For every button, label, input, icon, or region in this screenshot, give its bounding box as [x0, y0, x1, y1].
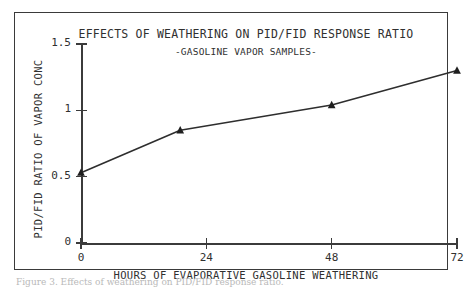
series-polyline: [81, 71, 457, 173]
plot-area: 00.511.5 0244872: [81, 44, 457, 243]
y-tick-label: 0: [31, 235, 71, 248]
x-tick-label: 0: [61, 251, 101, 264]
x-tick-label: 24: [186, 251, 226, 264]
y-tick-label: 0.5: [31, 169, 71, 182]
data-point-marker: [453, 66, 461, 73]
y-axis-title: PID/FID RATIO OF VAPOR CONC: [32, 44, 44, 254]
chart-frame: EFFECTS OF WEATHERING ON PID/FID RESPONS…: [14, 12, 448, 270]
figure-caption: Figure 3. Effects of weathering on PID/F…: [16, 277, 446, 288]
chart-title: EFFECTS OF WEATHERING ON PID/FID RESPONS…: [15, 27, 468, 41]
data-series-line: [81, 44, 457, 244]
x-tick-label: 48: [312, 251, 352, 264]
series-markers: [77, 66, 461, 176]
y-tick-label: 1: [31, 102, 71, 115]
x-tick-label: 72: [437, 251, 468, 264]
y-tick-label: 1.5: [31, 36, 71, 49]
